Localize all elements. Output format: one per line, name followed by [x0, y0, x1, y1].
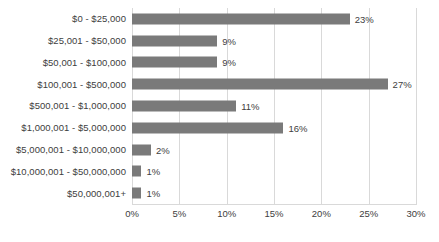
bar-group: 1%: [132, 188, 160, 199]
bar: [132, 188, 141, 199]
bar-row: $50,000,001+ 1%: [0, 182, 439, 204]
bar-group: 23%: [132, 13, 374, 24]
bar-group: 9%: [132, 57, 236, 68]
bar-value-label: 9%: [222, 35, 236, 46]
bar-row: $100,001 - $500,000 27%: [0, 73, 439, 95]
category-label: $25,001 - $50,000: [0, 35, 126, 46]
bar-rows: $0 - $25,000 23% $25,001 - $50,000 9% $5…: [0, 8, 439, 204]
bar: [132, 144, 151, 155]
bar-row: $25,001 - $50,000 9%: [0, 30, 439, 52]
category-label: $50,000,001+: [0, 188, 126, 199]
bar: [132, 100, 236, 111]
x-tick-label: 25%: [359, 208, 378, 220]
bar-value-label: 16%: [288, 122, 307, 133]
bar-value-label: 2%: [156, 144, 170, 155]
category-label: $0 - $25,000: [0, 13, 126, 24]
x-tick-label: 20%: [312, 208, 331, 220]
bar-value-label: 27%: [393, 79, 412, 90]
bar-chart: $0 - $25,000 23% $25,001 - $50,000 9% $5…: [0, 0, 439, 242]
bar-group: 1%: [132, 166, 160, 177]
bar-value-label: 1%: [146, 166, 160, 177]
x-tick-label: 30%: [406, 208, 425, 220]
category-label: $100,001 - $500,000: [0, 79, 126, 90]
x-tick-label: 10%: [217, 208, 236, 220]
bar-group: 16%: [132, 122, 307, 133]
bar-value-label: 23%: [355, 13, 374, 24]
bar-row: $10,000,001 - $50,000,000 1%: [0, 160, 439, 182]
bar-row: $1,000,001 - $5,000,000 16%: [0, 117, 439, 139]
bar-value-label: 11%: [241, 100, 259, 111]
bar-group: 27%: [132, 79, 412, 90]
bar-group: 9%: [132, 35, 236, 46]
bar: [132, 166, 141, 177]
bar-row: $50,001 - $100,000 9%: [0, 52, 439, 74]
bar-row: $500,001 - $1,000,000 11%: [0, 95, 439, 117]
bar: [132, 79, 388, 90]
bar-value-label: 9%: [222, 57, 236, 68]
category-label: $500,001 - $1,000,000: [0, 100, 126, 111]
x-tick-label: 5%: [172, 208, 186, 220]
x-tick-label: 15%: [264, 208, 283, 220]
bar-group: 2%: [132, 144, 170, 155]
bar: [132, 35, 217, 46]
x-axis: 0% 5% 10% 15% 20% 25% 30%: [0, 206, 439, 226]
category-label: $50,001 - $100,000: [0, 57, 126, 68]
bar-row: $0 - $25,000 23%: [0, 8, 439, 30]
category-label: $1,000,001 - $5,000,000: [0, 122, 126, 133]
x-tick-label: 0%: [125, 208, 139, 220]
x-axis-line: [132, 204, 417, 205]
category-label: $5,000,001 - $10,000,000: [0, 144, 126, 155]
category-label: $10,000,001 - $50,000,000: [0, 166, 126, 177]
bar-group: 11%: [132, 100, 259, 111]
bar-row: $5,000,001 - $10,000,000 2%: [0, 139, 439, 161]
bar: [132, 57, 217, 68]
bar: [132, 122, 283, 133]
bar-value-label: 1%: [146, 188, 160, 199]
bar: [132, 13, 350, 24]
